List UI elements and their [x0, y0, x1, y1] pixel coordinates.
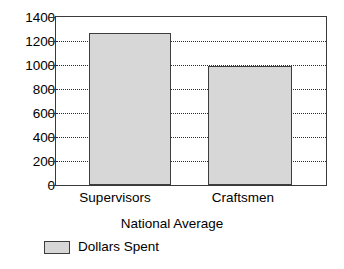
x-axis-title: National Average	[0, 216, 344, 231]
y-tick-mark-600	[48, 113, 55, 114]
y-tick-mark-1200	[48, 41, 55, 42]
chart-legend: Dollars Spent	[44, 240, 159, 254]
x-tick-label-craftsmen: Craftsmen	[192, 190, 294, 205]
y-tick-mark-400	[48, 137, 55, 138]
y-tick-mark-1000	[48, 65, 55, 66]
bar-supervisors[interactable]	[89, 33, 171, 185]
plot-area	[55, 16, 327, 186]
y-tick-mark-200	[48, 161, 55, 162]
bar-craftsmen[interactable]	[208, 66, 292, 185]
bar-chart-figure: 1400 1200 1000 800 600 400 200 0 Supervi…	[0, 0, 344, 269]
legend-label-dollars-spent: Dollars Spent	[78, 240, 159, 254]
y-tick-mark-800	[48, 89, 55, 90]
y-tick-mark-0	[48, 185, 55, 186]
legend-swatch-dollars-spent	[44, 241, 70, 254]
x-tick-label-supervisors: Supervisors	[60, 190, 170, 205]
y-tick-mark-1400	[48, 17, 55, 18]
